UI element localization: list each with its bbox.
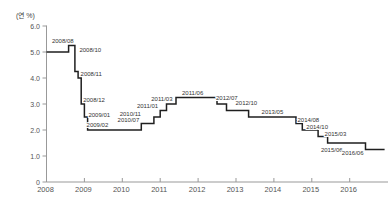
x-tick-label: 2014: [265, 185, 282, 194]
rate-change-label: 2014/10: [306, 124, 328, 130]
x-tick-label: 2012: [189, 185, 206, 194]
rate-change-label: 2009/02: [87, 122, 109, 128]
rate-change-label: 2011/03: [151, 96, 173, 102]
x-tick-label: 2009: [75, 185, 92, 194]
x-tick-label: 2008: [37, 185, 54, 194]
rate-change-label: 2009/01: [88, 112, 110, 118]
x-tick-label: 2016: [340, 185, 357, 194]
rate-change-label: 2012/10: [236, 100, 258, 106]
rate-change-label: 2008/11: [81, 71, 103, 77]
rate-change-label: 2008/10: [79, 47, 101, 53]
rate-change-label: 2010/07: [118, 117, 140, 123]
rate-change-label: 2010/11: [120, 111, 142, 117]
rate-change-label: 2008/08: [52, 38, 74, 44]
rate-change-label: 2008/12: [83, 97, 105, 103]
y-tick-label: 2.0: [30, 127, 40, 134]
rate-change-label: 2015/06: [321, 147, 343, 153]
y-tick-label: 3.0: [30, 101, 40, 108]
y-tick-label: 1.0: [30, 153, 40, 160]
chart-canvas: (연 %) 01.02.03.04.05.06.0200820092010201…: [0, 0, 390, 213]
x-tick-label: 2015: [302, 185, 319, 194]
x-tick-label: 2011: [151, 185, 167, 194]
x-tick-label: 2010: [113, 185, 130, 194]
rate-change-label: 2013/05: [262, 109, 284, 115]
rate-change-label: 2011/06: [182, 90, 204, 96]
rate-change-label: 2011/01: [137, 103, 159, 109]
y-tick-label: 5.0: [30, 49, 40, 56]
rate-change-label: 2014/08: [298, 117, 320, 123]
x-tick-label: 2013: [227, 185, 244, 194]
rate-change-label: 2016/06: [342, 150, 364, 156]
base-rate-step-chart: 01.02.03.04.05.06.0200820092010201120122…: [0, 0, 390, 213]
y-tick-label: 6.0: [30, 23, 40, 30]
rate-change-label: 2015/03: [325, 131, 347, 137]
y-tick-label: 4.0: [30, 75, 40, 82]
